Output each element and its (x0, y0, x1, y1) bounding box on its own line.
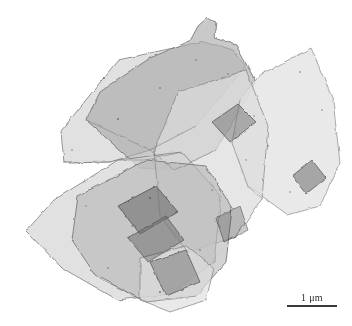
texture-overlay (0, 0, 352, 326)
micrograph-figure: 1 μm (0, 0, 352, 326)
micrograph-image (0, 0, 352, 326)
